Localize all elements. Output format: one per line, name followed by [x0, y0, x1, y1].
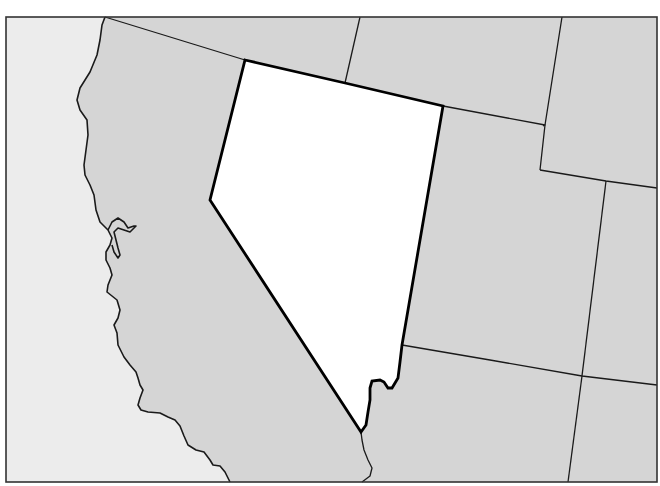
western-us-map [0, 0, 660, 486]
